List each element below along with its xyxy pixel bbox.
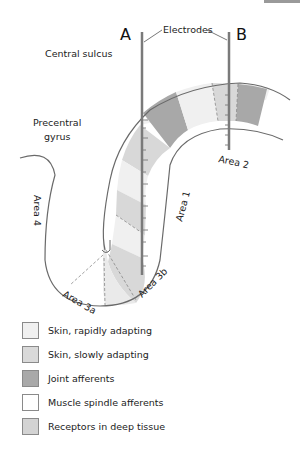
legend-item-joint: Joint afferents (22, 366, 165, 390)
swatch (22, 346, 39, 363)
legend-label: Muscle spindle afferents (48, 397, 164, 408)
legend-item-deep-tissue: Receptors in deep tissue (22, 414, 165, 438)
area2-bands (140, 83, 270, 148)
swatch (22, 418, 39, 435)
electrode-b-label: B (236, 25, 247, 44)
area4-label: Area 4 (32, 195, 43, 226)
area2-label: Area 2 (218, 153, 251, 170)
electrodes-label: Electrodes (163, 24, 213, 35)
swatch (22, 394, 39, 411)
precentral-label-2: gyrus (44, 131, 71, 142)
swatch (22, 322, 39, 339)
legend-item-muscle-spindle: Muscle spindle afferents (22, 390, 165, 414)
legend-label: Receptors in deep tissue (48, 421, 165, 432)
area1-label: Area 1 (173, 190, 192, 223)
precentral-label-1: Precentral (33, 117, 81, 128)
swatch (22, 370, 39, 387)
area3a-label: Area 3a (61, 288, 98, 316)
legend-label: Skin, slowly adapting (48, 349, 149, 360)
legend-label: Skin, rapidly adapting (48, 325, 152, 336)
electrode-a-label: A (120, 25, 131, 44)
legend-label: Joint afferents (48, 373, 114, 384)
legend-item-skin-slow: Skin, slowly adapting (22, 342, 165, 366)
legend: Skin, rapidly adapting Skin, slowly adap… (22, 318, 165, 438)
central-sulcus-label: Central sulcus (45, 48, 112, 59)
legend-item-skin-rapid: Skin, rapidly adapting (22, 318, 165, 342)
